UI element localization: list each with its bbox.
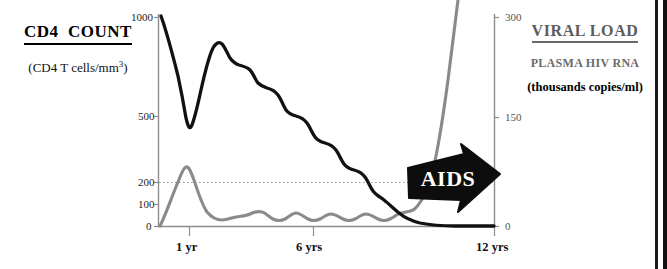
y-left-tick-0: 0 bbox=[146, 220, 152, 232]
plot-canvas bbox=[0, 0, 667, 269]
y-right-tick-300: 300 bbox=[505, 11, 522, 23]
x-tick-6yrs: 6 yrs bbox=[296, 240, 322, 255]
x-axis-ticks bbox=[190, 227, 495, 236]
x-tick-12yrs: 12 yrs bbox=[476, 240, 508, 255]
y-left-tick-1000: 1000 bbox=[131, 11, 153, 23]
aids-annotation: AIDS bbox=[406, 142, 502, 216]
y-left-tick-200: 200 bbox=[138, 176, 155, 188]
y-right-tick-0: 0 bbox=[505, 220, 511, 232]
y-left-tick-100: 100 bbox=[138, 198, 155, 210]
y-left-tick-500: 500 bbox=[138, 110, 155, 122]
aids-arrow-icon bbox=[406, 142, 502, 216]
x-tick-1yr: 1 yr bbox=[176, 240, 197, 255]
hiv-course-chart-figure: CD4 COUNT (CD4 T cells/mm3) VIRAL LOAD P… bbox=[0, 0, 667, 269]
y-right-tick-150: 150 bbox=[505, 111, 522, 123]
left-axis-ticks bbox=[154, 18, 158, 227]
